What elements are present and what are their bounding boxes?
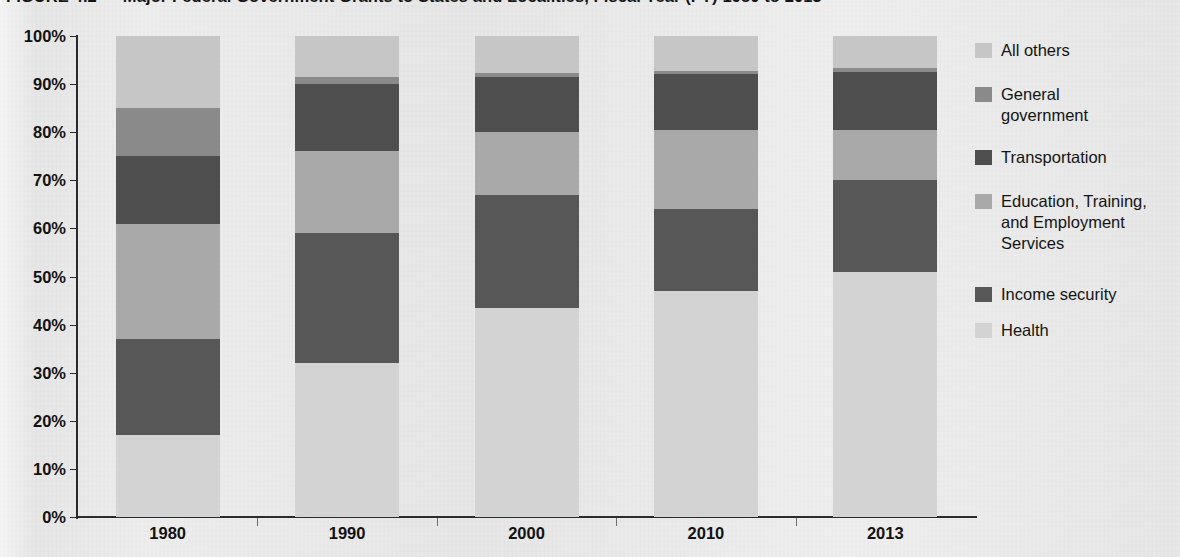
legend-swatch-icon [975, 150, 992, 165]
bar-segment [475, 308, 579, 517]
x-axis-tick-label: 2000 [467, 524, 587, 543]
bar-segment [116, 339, 220, 435]
y-axis-tick-label: 40% [8, 317, 66, 334]
figure-number: FIGURE 4.2 [6, 0, 97, 5]
legend-item-label: All others [1001, 40, 1070, 61]
y-axis-tick-label: 10% [8, 461, 66, 478]
bar-segment [475, 132, 579, 195]
legend-item: Health [975, 320, 1049, 341]
y-axis-tick [70, 84, 77, 85]
bar-segment [295, 151, 399, 233]
figure-title-text: Major Federal Government Grants to State… [123, 0, 822, 5]
bar-segment [295, 36, 399, 77]
figure-title: FIGURE 4.2Major Federal Government Grant… [6, 0, 1006, 6]
y-axis-tick-label: 30% [8, 365, 66, 382]
y-axis-tick [70, 421, 77, 422]
y-axis-tick [70, 373, 77, 374]
y-axis-tick [70, 469, 77, 470]
bar-segment [654, 74, 758, 129]
legend-item: Income security [975, 284, 1117, 305]
y-axis-tick-label: 100% [8, 28, 66, 45]
legend-item-label: Education, Training, and Employment Serv… [1001, 191, 1147, 254]
legend-swatch-icon [975, 323, 992, 338]
bar-segment [116, 156, 220, 223]
bar-segment [295, 233, 399, 363]
legend-item: Education, Training, and Employment Serv… [975, 191, 1147, 254]
bar-segment [833, 36, 937, 68]
y-axis-tick-label: 90% [8, 76, 66, 93]
y-axis-tick [70, 132, 77, 133]
bar-segment [833, 272, 937, 517]
legend-item: General government [975, 84, 1088, 126]
bar-segment [475, 36, 579, 73]
y-axis-tick [70, 325, 77, 326]
bar-segment [833, 180, 937, 271]
bar-segment [833, 72, 937, 130]
bar-segment [475, 195, 579, 308]
legend-item: All others [975, 40, 1070, 61]
plot-area [78, 36, 975, 517]
legend-swatch-icon [975, 194, 992, 209]
y-axis-tick [70, 36, 77, 37]
y-axis-tick [70, 277, 77, 278]
bar-segment [654, 36, 758, 71]
x-axis-tick [796, 518, 797, 526]
bar-stack-1980 [116, 36, 220, 517]
bar-segment [295, 363, 399, 517]
bar-segment [116, 108, 220, 156]
bar-segment [295, 77, 399, 84]
legend-item-label: Health [1001, 320, 1049, 341]
bar-segment [475, 73, 579, 77]
bar-segment [475, 77, 579, 132]
bar-segment [116, 224, 220, 339]
x-axis-tick [257, 518, 258, 526]
bar-stack-2000 [475, 36, 579, 517]
legend-item-label: Income security [1001, 284, 1117, 305]
bar-segment [654, 291, 758, 517]
y-axis-tick-label: 80% [8, 124, 66, 141]
legend-item-label: Transportation [1001, 147, 1107, 168]
x-axis-tick-label: 2010 [646, 524, 766, 543]
y-axis-tick-label: 60% [8, 220, 66, 237]
bar-segment [654, 130, 758, 209]
y-axis-tick [70, 180, 77, 181]
y-axis-tick-label: 50% [8, 269, 66, 286]
bar-segment [833, 130, 937, 181]
bar-segment [116, 36, 220, 108]
y-axis-tick-label: 0% [8, 509, 66, 526]
bar-stack-2010 [654, 36, 758, 517]
legend-swatch-icon [975, 43, 992, 58]
x-axis-tick-label: 1990 [287, 524, 407, 543]
bar-stack-2013 [833, 36, 937, 517]
figure-page: FIGURE 4.2Major Federal Government Grant… [0, 0, 1180, 557]
bar-segment [295, 84, 399, 151]
legend-item: Transportation [975, 147, 1107, 168]
legend-item-label: General government [1001, 84, 1088, 126]
bar-stack-1990 [295, 36, 399, 517]
bar-segment [654, 209, 758, 291]
y-axis-tick-label: 70% [8, 172, 66, 189]
y-axis-tick [70, 228, 77, 229]
legend-swatch-icon [975, 287, 992, 302]
bar-segment [833, 68, 937, 72]
bar-segment [116, 435, 220, 517]
x-axis-tick [437, 518, 438, 526]
x-axis-tick [616, 518, 617, 526]
y-axis-tick-label: 20% [8, 413, 66, 430]
x-axis-tick-label: 1980 [108, 524, 228, 543]
x-axis-tick-label: 2013 [825, 524, 945, 543]
bar-segment [654, 71, 758, 75]
y-axis-tick [70, 517, 77, 518]
legend-swatch-icon [975, 87, 992, 102]
